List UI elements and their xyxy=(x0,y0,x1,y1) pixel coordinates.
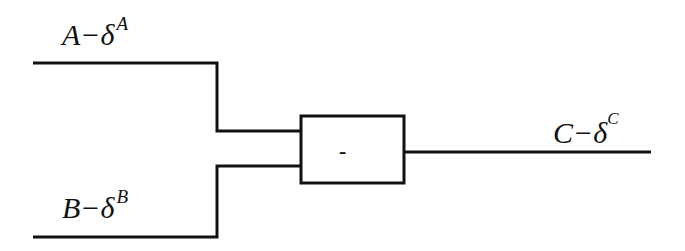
input-a-label: A−δA xyxy=(62,18,128,50)
label-a-base: A xyxy=(62,18,80,51)
output-c-label: C−δC xyxy=(553,118,619,148)
operator-block xyxy=(301,116,404,183)
label-c-base: C xyxy=(553,116,573,149)
label-c-dash: − xyxy=(573,116,593,149)
label-a-dash: − xyxy=(80,18,100,51)
label-c-delta: δ xyxy=(593,116,607,149)
label-a-sup: A xyxy=(117,13,129,34)
label-c-sup: C xyxy=(607,109,618,128)
label-b-delta: δ xyxy=(101,191,115,224)
input-a-wire xyxy=(33,63,301,131)
input-b-label: B−δB xyxy=(62,191,128,223)
label-b-dash: − xyxy=(80,191,100,224)
operator-symbol: - xyxy=(339,140,346,162)
label-b-sup: B xyxy=(117,186,129,207)
label-a-delta: δ xyxy=(101,18,115,51)
label-b-base: B xyxy=(62,191,80,224)
